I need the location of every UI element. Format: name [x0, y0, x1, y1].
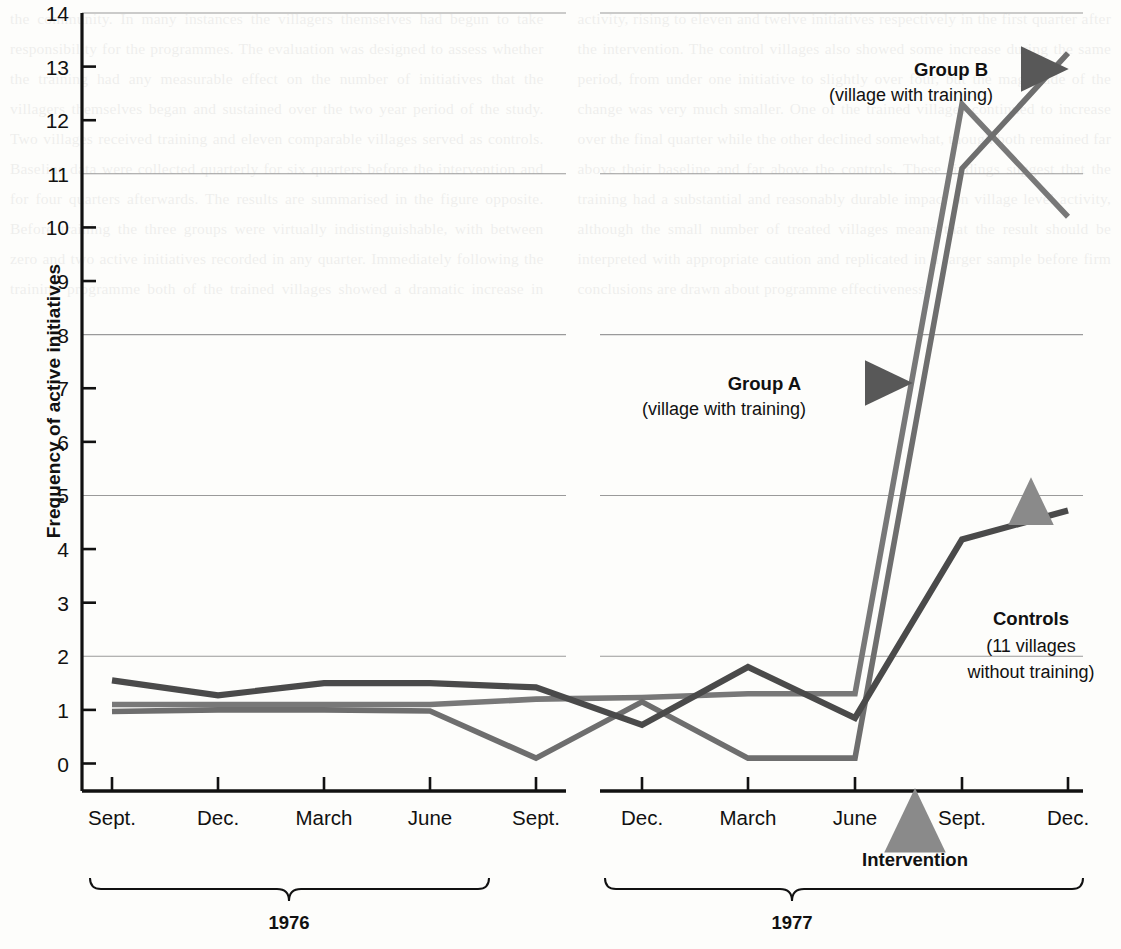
y-axis-ticks: 01234567891011121314	[46, 2, 96, 776]
x-tick-label: March	[296, 806, 353, 829]
year-brace-1977: 1977	[605, 878, 1083, 933]
x-tick-label: March	[720, 806, 777, 829]
y-tick-label: 1	[57, 699, 69, 722]
y-tick-label: 11	[47, 163, 69, 186]
intervention-label: Intervention	[862, 849, 968, 870]
x-tick-label: Dec.	[197, 806, 239, 829]
annotation-controls: Controls (11 villages without training)	[966, 484, 1094, 682]
data-series	[112, 53, 1068, 758]
y-tick-label: 10	[46, 216, 69, 239]
year-brace-1976: 1976	[90, 878, 489, 933]
x-tick-label: Sept.	[938, 806, 986, 829]
chart-figure: 01234567891011121314 Sept.Dec.MarchJuneS…	[0, 0, 1121, 949]
y-tick-label: 4	[57, 538, 69, 561]
y-tick-label: 12	[46, 109, 69, 132]
group-b-sublabel: (village with training)	[829, 85, 993, 105]
x-axis-ticks: Sept.Dec.MarchJuneSept.Dec.MarchJuneSept…	[88, 777, 1089, 829]
group-b-label: Group B	[914, 59, 988, 80]
y-tick-label: 3	[57, 592, 69, 615]
y-tick-label: 6	[57, 431, 69, 454]
group-a-sublabel: (village with training)	[642, 399, 806, 419]
series-line-controls	[112, 510, 1068, 724]
controls-sublabel-line2: without training)	[966, 662, 1094, 682]
year-1977-label: 1977	[771, 912, 812, 933]
year-1976-label: 1976	[268, 912, 309, 933]
group-a-label: Group A	[728, 373, 801, 394]
y-tick-label: 0	[57, 753, 69, 776]
series-line-group-b	[112, 53, 1068, 758]
x-tick-label: Dec.	[1047, 806, 1089, 829]
annotation-group-a: Group A (village with training)	[642, 373, 906, 419]
x-tick-label: Sept.	[88, 806, 136, 829]
axes	[82, 13, 1083, 791]
y-tick-label: 14	[46, 2, 70, 25]
controls-label: Controls	[993, 608, 1069, 629]
y-tick-label: 8	[57, 324, 69, 347]
x-tick-label: Sept.	[512, 806, 560, 829]
x-tick-label: Dec.	[621, 806, 663, 829]
y-tick-label: 9	[57, 270, 69, 293]
series-line-group-a	[112, 104, 1068, 704]
x-tick-label: June	[408, 806, 452, 829]
y-tick-label: 5	[57, 484, 69, 507]
y-tick-label: 2	[57, 645, 69, 668]
y-tick-label: 13	[46, 56, 69, 79]
x-tick-label: June	[833, 806, 877, 829]
y-tick-label: 7	[57, 377, 69, 400]
controls-sublabel-line1: (11 villages	[986, 636, 1076, 656]
